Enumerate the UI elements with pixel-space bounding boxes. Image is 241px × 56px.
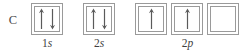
orbital-box[interactable]: [135, 3, 167, 35]
electron-arrow-up-icon: [38, 8, 45, 30]
element-symbol-label: C: [4, 13, 22, 27]
electron-arrow-up-icon: [90, 8, 97, 30]
subshell-label-2s: 2s: [83, 37, 115, 50]
subshell-orbital-letter: s: [48, 37, 52, 49]
orbital-box-row-2s: [83, 3, 115, 35]
subshell-orbital-letter: s: [100, 37, 104, 49]
electron-arrow-pair: [35, 7, 59, 31]
subshell-group-1s: [31, 3, 63, 35]
subshell-orbital-letter: p: [188, 37, 194, 49]
orbital-box-diagram: C 1s: [0, 0, 241, 56]
electron-arrow-single: [139, 7, 163, 31]
electron-arrow-pair: [87, 7, 111, 31]
orbital-box[interactable]: [171, 3, 203, 35]
subshell-label-1s: 1s: [31, 37, 63, 50]
subshell-label-2p: 2p: [135, 37, 240, 50]
electron-arrow-none: [211, 7, 235, 31]
orbital-box-row-1s: [31, 3, 63, 35]
electron-arrow-down-icon: [101, 8, 108, 30]
electron-arrow-down-icon: [49, 8, 56, 30]
electron-arrow-up-icon: [184, 8, 191, 30]
electron-arrow-up-icon: [148, 8, 155, 30]
orbital-box[interactable]: [31, 3, 63, 35]
electron-arrow-single: [175, 7, 199, 31]
subshell-group-2s: [83, 3, 115, 35]
orbital-box-empty[interactable]: [207, 3, 239, 35]
orbital-box[interactable]: [83, 3, 115, 35]
subshell-group-2p: [135, 3, 239, 35]
orbital-box-row-2p: [135, 3, 239, 35]
